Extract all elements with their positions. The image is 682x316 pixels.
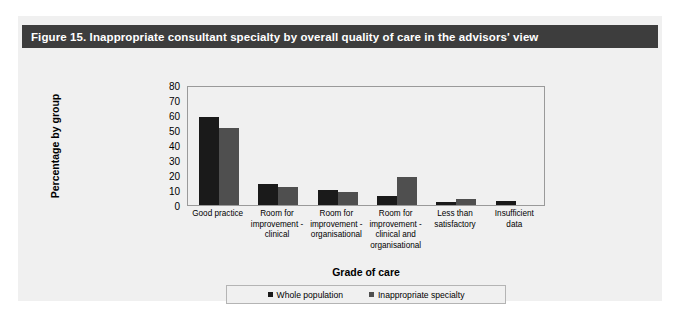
y-axis-tick-20: 20 <box>169 171 180 182</box>
figure-header-bar: Figure 15. Inappropriate consultant spec… <box>22 25 658 48</box>
bar-whole-population <box>258 184 278 205</box>
y-axis-tick-40: 40 <box>169 141 180 152</box>
bars-layer <box>188 87 544 205</box>
y-axis-tick-60: 60 <box>169 111 180 122</box>
figure-panel: Figure 15. Inappropriate consultant spec… <box>18 16 662 301</box>
x-axis-label-line: clinical and <box>364 230 428 241</box>
y-axis-tick-50: 50 <box>169 126 180 137</box>
bar-group <box>485 87 544 205</box>
bar-inappropriate-specialty <box>397 177 417 205</box>
x-axis-tick-label: Room forimprovement -organisational <box>304 209 368 241</box>
x-axis-label-line: improvement - <box>364 220 428 231</box>
bar-whole-population <box>318 190 338 205</box>
x-axis-label-line: Less than <box>423 209 487 220</box>
bar-group <box>188 87 247 205</box>
x-axis-tick-label: Less thansatisfactory <box>423 209 487 230</box>
x-axis-label-line: organisational <box>304 230 368 241</box>
bar-group <box>307 87 366 205</box>
x-axis-tick-label: Insufficientdata <box>482 209 546 230</box>
bar-whole-population <box>496 201 516 205</box>
x-axis-label-line: clinical <box>245 230 309 241</box>
chart-legend: Whole populationInappropriate specialty <box>226 285 506 304</box>
bar-whole-population <box>199 117 219 206</box>
bar-group <box>247 87 306 205</box>
legend-label: Inappropriate specialty <box>378 290 464 300</box>
y-axis-tick-80: 80 <box>169 81 180 92</box>
x-axis-label-line: improvement - <box>245 220 309 231</box>
bar-inappropriate-specialty <box>338 192 358 205</box>
bar-inappropriate-specialty <box>456 199 476 205</box>
bar-inappropriate-specialty <box>278 187 298 205</box>
x-axis-label-line: Insufficient <box>482 209 546 220</box>
legend-swatch-icon <box>268 292 273 297</box>
x-axis-label-line: Room for <box>364 209 428 220</box>
x-axis-tick-label: Room forimprovement -clinical <box>245 209 309 241</box>
x-axis-label-line: Good practice <box>186 209 250 220</box>
x-axis-label-line: improvement - <box>304 220 368 231</box>
x-axis-title: Grade of care <box>188 266 544 278</box>
x-axis-label-line: satisfactory <box>423 220 487 231</box>
y-axis-title: Percentage by group <box>49 76 61 216</box>
y-axis-tick-30: 30 <box>169 156 180 167</box>
y-axis-tick-0: 0 <box>174 201 180 212</box>
x-axis-label-line: organisational <box>364 241 428 252</box>
x-axis-label-line: Room for <box>304 209 368 220</box>
legend-label: Whole population <box>277 290 343 300</box>
x-axis-tick-label: Good practice <box>186 209 250 220</box>
x-axis-label-line: data <box>482 220 546 231</box>
legend-swatch-icon <box>369 292 374 297</box>
y-axis-tick-70: 70 <box>169 96 180 107</box>
x-axis-label-line: Room for <box>245 209 309 220</box>
bar-group <box>366 87 425 205</box>
bar-chart: Percentage by group 01020304050607080 Go… <box>18 52 662 301</box>
x-axis-tick-labels: Good practiceRoom forimprovement -clinic… <box>188 209 544 271</box>
x-axis-tick-label: Room forimprovement -clinical andorganis… <box>364 209 428 251</box>
y-axis-tick-10: 10 <box>169 186 180 197</box>
y-axis-tick-labels: 01020304050607080 <box>148 80 184 212</box>
bar-inappropriate-specialty <box>219 128 239 205</box>
bar-whole-population <box>436 202 456 205</box>
legend-entry: Whole population <box>268 290 343 300</box>
figure-title: Figure 15. Inappropriate consultant spec… <box>22 31 538 43</box>
bar-whole-population <box>377 196 397 205</box>
bar-group <box>425 87 484 205</box>
legend-entry: Inappropriate specialty <box>369 290 464 300</box>
